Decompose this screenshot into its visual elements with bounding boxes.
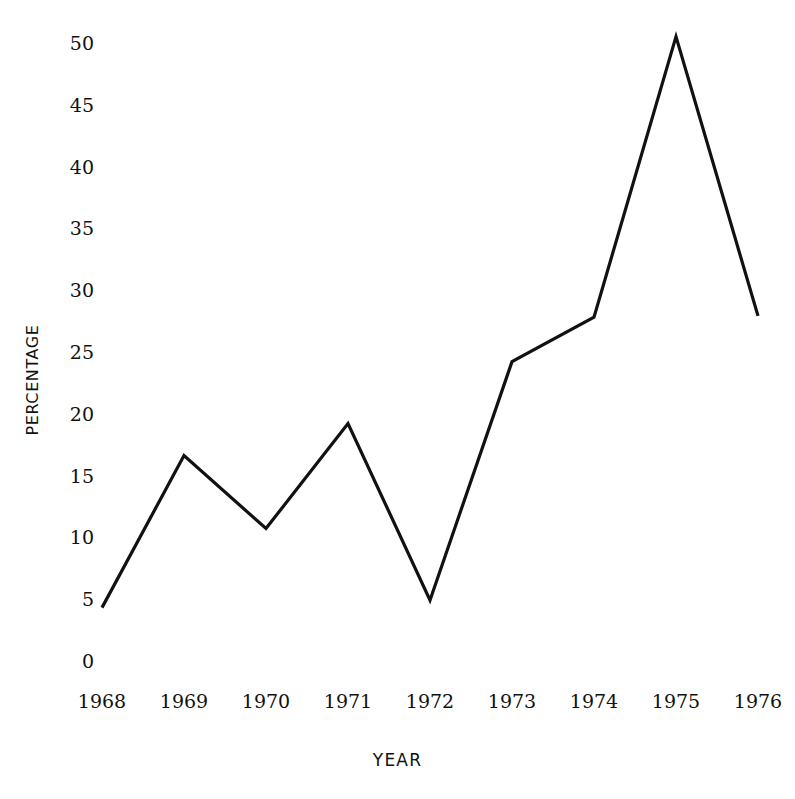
line-chart: PERCENTAGE 50454035302520151050 19681969… [0, 0, 795, 799]
plot-area [0, 0, 795, 799]
data-series-line [102, 37, 758, 608]
